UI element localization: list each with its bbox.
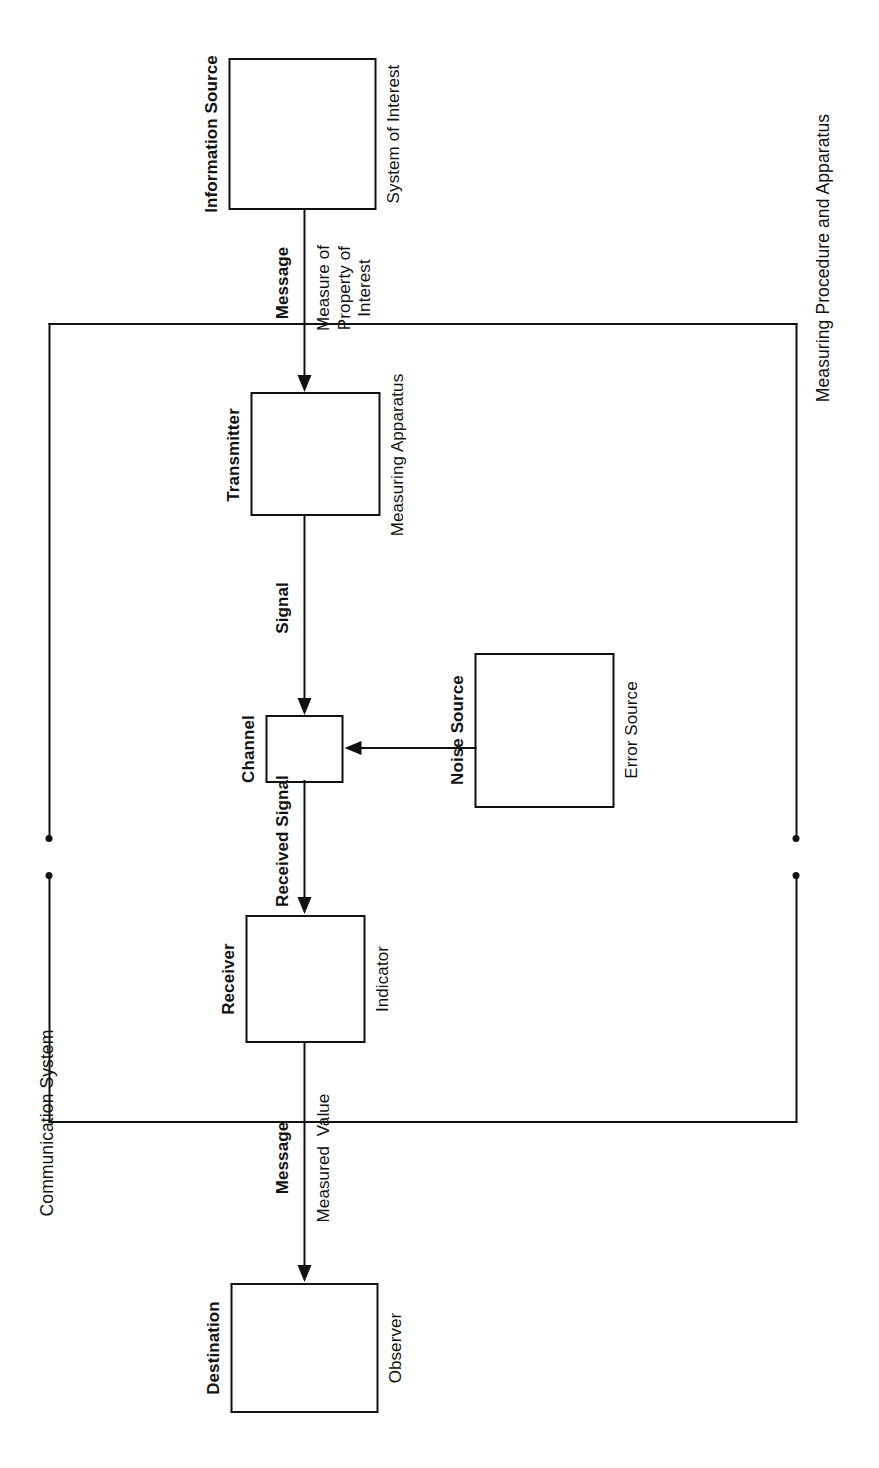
edge-receiver-to-destination-secondary-label: Measured Value: [313, 1048, 334, 1268]
node-information-source-primary-label: Information Source: [201, 34, 222, 234]
edge-transmitter-to-channel-arrowhead: [297, 698, 311, 715]
node-transmitter[interactable]: [250, 392, 380, 516]
edge-noise-to-channel-arrowhead: [344, 741, 361, 755]
group-box-bottom-left-dot: [792, 872, 799, 879]
edge-source-to-transmitter-arrowhead: [297, 375, 311, 392]
group-box-bottom-left-segment: [795, 876, 797, 1123]
node-noise-source-secondary-label: Error Source: [621, 630, 642, 830]
group-label-communication-system: Communication System: [36, 968, 57, 1278]
group-box-bottom-right-segment: [795, 323, 797, 838]
edge-receiver-to-destination-line: [303, 1043, 305, 1268]
edge-receiver-to-destination-arrowhead: [297, 1265, 311, 1282]
group-label-measuring-procedure: Measuring Procedure and Apparatus: [812, 48, 833, 468]
node-transmitter-primary-label: Transmitter: [223, 355, 244, 555]
node-receiver-secondary-label: Indicator: [372, 879, 393, 1079]
node-noise-source[interactable]: [474, 653, 614, 808]
edge-channel-to-receiver-arrowhead: [297, 897, 311, 914]
diagram-rotated-layer: Communication System Measuring Procedure…: [0, 0, 879, 1468]
node-information-source-secondary-label: System of Interest: [383, 34, 404, 234]
edge-source-to-transmitter-secondary-label: Measure of Property of Interest: [313, 198, 375, 378]
edge-source-to-transmitter-primary-label: Message: [272, 183, 293, 383]
group-box-top-right-segment: [48, 323, 50, 838]
group-box-right-edge: [48, 323, 797, 325]
edge-receiver-to-destination-primary-label: Message: [272, 1058, 293, 1258]
node-destination[interactable]: [230, 1283, 378, 1413]
edge-noise-to-channel-line: [358, 747, 476, 749]
diagram-canvas: Communication System Measuring Procedure…: [0, 0, 879, 1468]
node-transmitter-secondary-label: Measuring Apparatus: [387, 355, 408, 555]
group-box-left-edge: [48, 1121, 797, 1123]
edge-channel-to-receiver-primary-label: Received Signal: [272, 741, 293, 941]
edge-channel-to-receiver-line: [303, 780, 305, 900]
node-receiver[interactable]: [245, 915, 365, 1043]
node-receiver-primary-label: Receiver: [218, 879, 239, 1079]
node-channel-primary-label: Channel: [238, 649, 259, 849]
edge-source-to-transmitter-line: [303, 208, 305, 378]
group-box-top-left-dot: [45, 872, 52, 879]
edge-transmitter-to-channel-primary-label: Signal: [272, 508, 293, 708]
node-destination-primary-label: Destination: [203, 1248, 224, 1448]
node-information-source[interactable]: [228, 58, 376, 210]
node-destination-secondary-label: Observer: [385, 1248, 406, 1448]
edge-transmitter-to-channel-line: [303, 514, 305, 701]
node-noise-source-primary-label: Noise Source: [447, 630, 468, 830]
